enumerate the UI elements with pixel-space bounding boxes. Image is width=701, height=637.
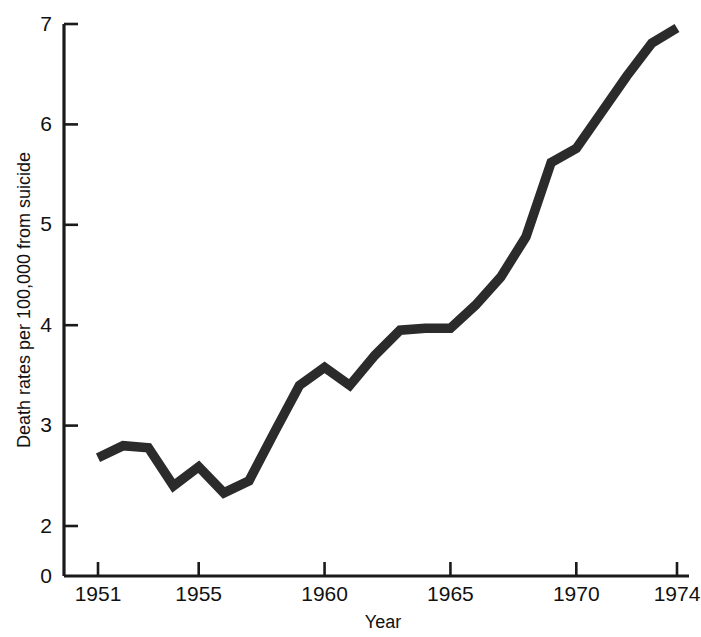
data-series-line <box>98 28 677 493</box>
y-tick-label: 5 <box>40 212 52 235</box>
x-tick-label: 1951 <box>75 582 122 605</box>
x-tick-label: 1955 <box>175 582 222 605</box>
x-tick-label: 1970 <box>553 582 600 605</box>
y-tick-label: 4 <box>40 313 52 336</box>
y-axis-title: Death rates per 100,000 from suicide <box>14 152 34 448</box>
y-tick-label: 6 <box>40 112 52 135</box>
y-tick-label: 2 <box>40 514 52 537</box>
y-axis-ticks: 0234567 <box>40 12 78 587</box>
plot-area: 0234567 195119551960196519701974 <box>40 12 700 606</box>
x-tick-label: 1974 <box>654 582 701 605</box>
line-chart: 0234567 195119551960196519701974 Year De… <box>0 0 701 637</box>
y-tick-label: 7 <box>40 12 52 35</box>
x-axis-ticks: 195119551960196519701974 <box>75 562 701 605</box>
y-tick-label: 0 <box>40 564 52 587</box>
y-tick-label: 3 <box>40 413 52 436</box>
x-axis-title: Year <box>365 612 401 632</box>
x-tick-label: 1960 <box>301 582 348 605</box>
chart-canvas: 0234567 195119551960196519701974 Year De… <box>0 0 701 637</box>
x-tick-label: 1965 <box>427 582 474 605</box>
